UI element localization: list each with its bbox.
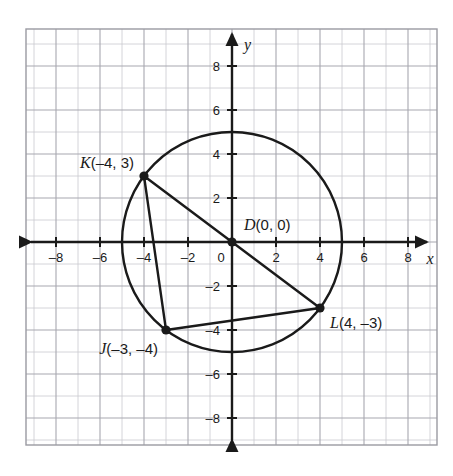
y-tick-label: –8	[206, 411, 220, 426]
point-marker-J	[161, 325, 170, 334]
y-tick-label: 2	[213, 191, 220, 206]
point-label-K: K(–4, 3)	[79, 154, 134, 171]
point-marker-D	[227, 237, 236, 246]
y-tick-label: 4	[213, 147, 220, 162]
point-label-J: J(–3, –4)	[99, 340, 158, 357]
point-label-L: L(4, –3)	[329, 314, 382, 331]
x-tick-label: –2	[181, 250, 195, 265]
x-tick-label: 2	[272, 250, 279, 265]
x-tick-label: 6	[360, 250, 367, 265]
graph-canvas: –8–6–4–2024688642–2–4–6–8 xy D(0, 0)K(–4…	[0, 0, 453, 476]
coordinate-plane-figure: –8–6–4–2024688642–2–4–6–8 xy D(0, 0)K(–4…	[0, 0, 453, 476]
x-tick-label: –6	[93, 250, 107, 265]
x-tick-label: –4	[137, 250, 151, 265]
y-axis-label: y	[242, 36, 252, 54]
x-axis-label: x	[425, 250, 433, 267]
y-tick-label: 6	[213, 103, 220, 118]
point-marker-K	[139, 171, 148, 180]
x-tick-label: 4	[316, 250, 323, 265]
y-tick-label: –6	[206, 367, 220, 382]
x-tick-label: 0	[217, 250, 224, 265]
y-tick-label: –2	[206, 279, 220, 294]
point-label-D: D(0, 0)	[243, 216, 291, 233]
point-marker-L	[315, 303, 324, 312]
x-tick-label: 8	[404, 250, 411, 265]
y-tick-label: 8	[213, 59, 220, 74]
x-tick-label: –8	[49, 250, 63, 265]
